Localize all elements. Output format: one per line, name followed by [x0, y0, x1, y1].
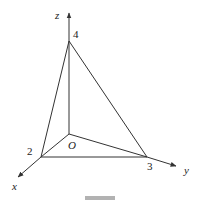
caption-fragment: [85, 196, 115, 200]
edge-origin-y: [69, 134, 147, 157]
z-intercept-label: 4: [73, 28, 79, 40]
origin-label: O: [68, 139, 76, 151]
edge-y-z: [69, 41, 147, 157]
x-axis-label: x: [11, 180, 17, 192]
y-axis-label: y: [183, 164, 189, 176]
tetrahedron-diagram: z 4 O 2 3 y x: [0, 0, 201, 200]
x-intercept-label: 2: [27, 145, 33, 157]
edge-x-z: [41, 41, 69, 157]
edge-origin-x: [41, 134, 69, 157]
y-intercept-label: 3: [147, 160, 153, 172]
z-axis-label: z: [54, 9, 60, 21]
x-axis: [18, 157, 41, 177]
